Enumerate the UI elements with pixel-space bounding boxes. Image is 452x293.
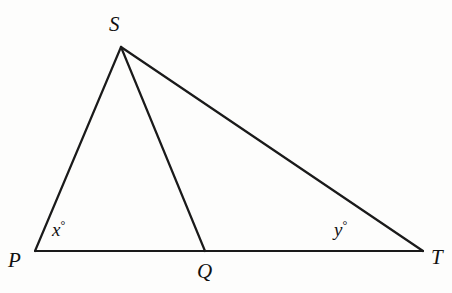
degree-symbol-x: ° [60, 218, 65, 232]
vertex-label-q: Q [197, 261, 212, 282]
angle-label-y: y° [334, 219, 347, 239]
degree-symbol-y: ° [342, 218, 347, 232]
segment-SQ [121, 47, 205, 251]
segment-PS [35, 47, 121, 251]
triangle-outline [35, 47, 423, 251]
vertex-label-p: P [8, 250, 21, 271]
vertex-label-s: S [109, 14, 120, 35]
vertex-label-t: T [431, 247, 443, 268]
segment-ST [121, 47, 423, 251]
geometry-canvas [0, 0, 452, 293]
geometry-figure: P S Q T x° y° [0, 0, 452, 293]
angle-label-x: x° [52, 219, 65, 239]
